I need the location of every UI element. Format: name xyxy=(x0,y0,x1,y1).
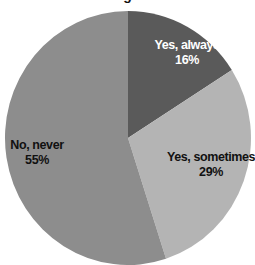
label-name: Yes, sometimes xyxy=(167,150,255,164)
label-name: Yes, always xyxy=(154,38,220,52)
label-pct: 55% xyxy=(25,153,49,167)
label-pct: 29% xyxy=(199,165,223,179)
pie-chart: Yes, always 16% Yes, sometimes 29% No, n… xyxy=(0,0,255,265)
label-pct: 16% xyxy=(175,53,199,67)
label-name: No, never xyxy=(10,138,64,152)
